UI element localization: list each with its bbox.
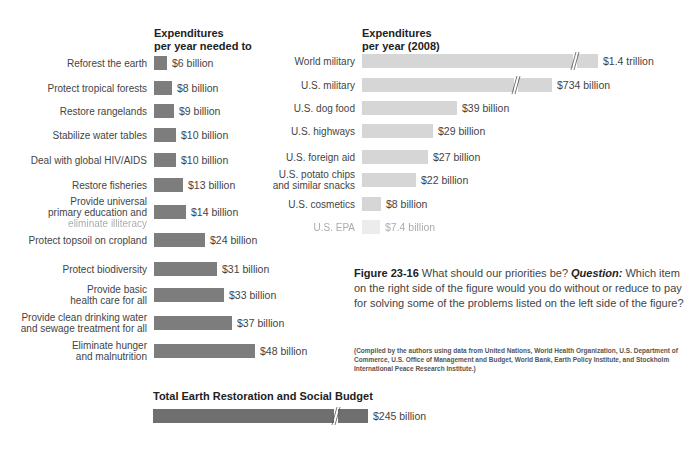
left-header-line2: per year needed to: [154, 40, 252, 53]
left-row-bar: [154, 153, 176, 167]
right-row-value: $1.4 trillion: [603, 54, 654, 68]
right-row-label: U.S. dog food: [294, 103, 355, 114]
left-row-label: Deal with global HIV/AIDS: [31, 155, 147, 166]
right-chart-header: Expenditures per year (2008): [362, 27, 440, 53]
caption-question-label: Question:: [571, 267, 622, 279]
left-row-bar: [154, 288, 224, 302]
left-row-value: $8 billion: [177, 81, 218, 95]
left-row-label-line: Restore rangelands: [60, 106, 147, 117]
left-row-label-line: Provide universal: [48, 196, 147, 207]
left-row-label: Restore rangelands: [60, 106, 147, 117]
axis-break-icon: [511, 74, 521, 96]
figure-caption: Figure 23-16 What should our priorities …: [354, 266, 689, 311]
right-row-bar: [362, 220, 380, 234]
left-row-label: Stabilize water tables: [53, 130, 148, 141]
left-chart-header: Expenditures per year needed to: [154, 27, 252, 53]
right-row-bar: [362, 173, 416, 187]
right-row-label-line: U.S. cosmetics: [288, 199, 355, 210]
total-value: $245 billion: [373, 409, 426, 423]
right-row-label-line: World military: [295, 56, 355, 67]
right-row-value: $734 billion: [557, 78, 610, 92]
left-row-label-line: Stabilize water tables: [53, 130, 148, 141]
left-row-bar: [154, 178, 183, 192]
left-row-label-line: eliminate illiteracy: [48, 218, 147, 229]
left-row-bar: [154, 104, 174, 118]
left-row-label: Reforest the earth: [67, 58, 147, 69]
left-row-bar: [154, 233, 205, 247]
right-row-label: U.S. highways: [291, 126, 355, 137]
left-row-label-line: and sewage treatment for all: [21, 323, 147, 334]
right-row-bar: [362, 101, 457, 115]
right-row-value: $27 billion: [433, 150, 480, 164]
left-row-label-line: Eliminate hunger: [72, 340, 147, 351]
right-row-bar: [362, 54, 598, 68]
right-row-value: $22 billion: [421, 173, 468, 187]
right-row-label-line: and similar snacks: [273, 180, 355, 191]
right-row-label-line: U.S. EPA: [314, 222, 356, 233]
left-row-label-line: and malnutrition: [72, 351, 147, 362]
left-row-value: $10 billion: [181, 153, 228, 167]
source-note: (Compiled by the authors using data from…: [354, 346, 694, 373]
right-row-label: World military: [295, 56, 355, 67]
left-row-label-line: Reforest the earth: [67, 58, 147, 69]
left-row-value: $48 billion: [260, 344, 307, 358]
left-row-label: Provide universalprimary education andel…: [48, 196, 147, 229]
left-row-label: Provide basichealth care for all: [70, 284, 147, 306]
left-row-label: Protect topsoil on cropland: [29, 235, 147, 246]
right-row-label: U.S. potato chipsand similar snacks: [273, 169, 355, 191]
axis-break-icon: [331, 405, 341, 427]
left-row-label-line: Protect tropical forests: [48, 83, 147, 94]
total-bar: [153, 409, 368, 423]
left-row-label-line: Provide basic: [70, 284, 147, 295]
left-row-value: $13 billion: [188, 178, 235, 192]
left-row-label-line: primary education and: [48, 207, 147, 218]
right-row-label: U.S. military: [301, 80, 355, 91]
right-header-line1: Expenditures: [362, 27, 440, 40]
right-row-label-line: U.S. potato chips: [273, 169, 355, 180]
right-row-label-line: U.S. foreign aid: [286, 152, 355, 163]
left-row-bar: [154, 56, 167, 70]
left-row-value: $31 billion: [222, 262, 269, 276]
right-row-label: U.S. EPA: [314, 222, 356, 233]
left-row-label: Restore fisheries: [72, 180, 147, 191]
left-row-bar: [154, 128, 176, 142]
right-row-label: U.S. cosmetics: [288, 199, 355, 210]
left-header-line1: Expenditures: [154, 27, 252, 40]
figure-number: Figure 23-16: [354, 267, 419, 279]
left-row-label-line: Protect biodiversity: [63, 264, 147, 275]
right-row-value: $29 billion: [438, 124, 485, 138]
left-row-bar: [154, 316, 232, 330]
left-row-value: $33 billion: [229, 288, 276, 302]
left-row-bar: [154, 81, 172, 95]
right-row-bar: [362, 124, 433, 138]
left-row-label-line: health care for all: [70, 295, 147, 306]
right-row-value: $8 billion: [386, 197, 427, 211]
left-row-label-line: Deal with global HIV/AIDS: [31, 155, 147, 166]
left-row-value: $14 billion: [191, 205, 238, 219]
left-row-label-line: Protect topsoil on cropland: [29, 235, 147, 246]
left-row-bar: [154, 262, 217, 276]
left-row-value: $10 billion: [181, 128, 228, 142]
caption-text: What should our priorities be?: [419, 267, 571, 279]
right-row-label-line: U.S. dog food: [294, 103, 355, 114]
right-row-bar: [362, 197, 381, 211]
right-row-value: $39 billion: [462, 101, 509, 115]
left-row-value: $9 billion: [179, 104, 220, 118]
left-row-value: $37 billion: [237, 316, 284, 330]
left-row-label: Protect tropical forests: [48, 83, 147, 94]
left-row-label: Eliminate hungerand malnutrition: [72, 340, 147, 362]
left-row-bar: [154, 205, 186, 219]
axis-break-icon: [570, 50, 580, 72]
right-row-value: $7.4 billion: [385, 220, 435, 234]
total-title: Total Earth Restoration and Social Budge…: [153, 390, 373, 403]
left-row-value: $24 billion: [210, 233, 257, 247]
right-row-label-line: U.S. highways: [291, 126, 355, 137]
left-row-label-line: Restore fisheries: [72, 180, 147, 191]
left-row-label: Provide clean drinking waterand sewage t…: [21, 312, 147, 334]
right-row-bar: [362, 78, 552, 92]
left-row-label: Protect biodiversity: [63, 264, 147, 275]
right-row-label-line: U.S. military: [301, 80, 355, 91]
right-row-bar: [362, 150, 428, 164]
left-row-bar: [154, 344, 255, 358]
left-row-label-line: Provide clean drinking water: [21, 312, 147, 323]
